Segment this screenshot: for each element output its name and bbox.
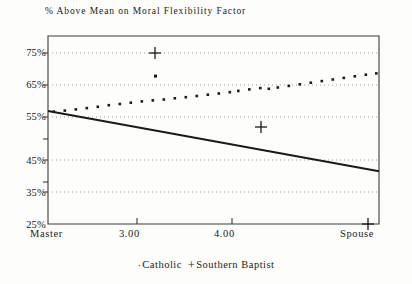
x-tick-label-master: Master	[30, 228, 63, 239]
x-tick-label-4: 4.00	[214, 228, 235, 239]
series-markers-catholic	[53, 72, 378, 113]
legend-label-southern-baptist: Southern Baptist	[196, 259, 274, 270]
chart-legend: ·Catholic+Southern Baptist	[0, 258, 412, 273]
legend-label-catholic: Catholic	[142, 259, 182, 270]
grid-lines	[48, 53, 379, 192]
x-tick-label-spouse: Spouse	[340, 228, 374, 239]
series-line-southern-baptist	[48, 111, 379, 171]
x-tick-label-3: 3.00	[119, 228, 140, 239]
chart-container: % Above Mean on Moral Flexibility Factor…	[0, 0, 412, 284]
series-markers-southern-baptist	[149, 47, 374, 230]
x-axis-ticks	[137, 218, 232, 224]
axis-frame	[48, 36, 379, 224]
y-axis-ticks	[43, 53, 48, 192]
plot-area	[0, 0, 412, 284]
legend-plus-icon: +	[182, 258, 196, 272]
